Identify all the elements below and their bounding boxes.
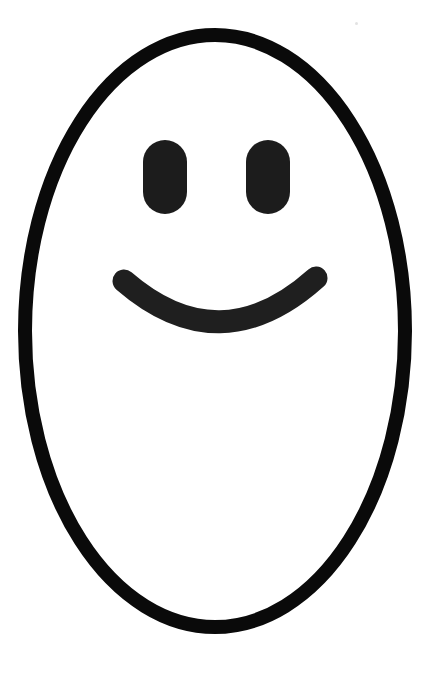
background-rect <box>0 0 442 677</box>
right-eye-icon <box>246 140 290 214</box>
left-eye-icon <box>143 140 187 214</box>
smiley-face-illustration <box>0 0 442 677</box>
dust-speck <box>355 22 358 25</box>
drawing-canvas: A tall black outlined oval face with two… <box>0 0 442 677</box>
